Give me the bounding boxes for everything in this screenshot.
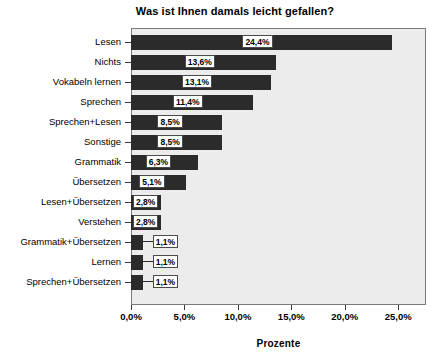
category-label: Sprechen — [80, 92, 121, 112]
x-axis-title: Prozente — [131, 338, 426, 349]
bar-value-label: 2,8% — [133, 195, 158, 208]
x-axis-tick — [184, 305, 185, 310]
category-axis: LesenNichtsVokabeln lernenSprechenSprech… — [0, 28, 131, 305]
x-axis-tick-label: 15,0% — [266, 311, 316, 322]
bar-chart: Was ist Ihnen damals leicht gefallen? Le… — [0, 0, 440, 362]
category-label: Nichts — [95, 52, 121, 72]
category-label: Sprechen+Übersetzen — [26, 272, 121, 292]
x-axis-tick — [291, 305, 292, 310]
bar-row: 13,1% — [131, 72, 426, 92]
x-axis-tick — [131, 305, 132, 310]
bar-value-label: 1,1% — [153, 275, 178, 288]
x-axis-tick — [398, 305, 399, 310]
bar-value-label: 1,1% — [153, 255, 178, 268]
category-label: Grammatik — [75, 152, 121, 172]
category-label: Lesen — [95, 32, 121, 52]
bar — [131, 275, 143, 290]
bar-row: 5,1% — [131, 172, 426, 192]
bar-value-label: 5,1% — [139, 175, 164, 188]
x-axis-tick — [345, 305, 346, 310]
bar-value-label: 13,6% — [185, 55, 215, 68]
x-axis-tick — [238, 305, 239, 310]
category-label: Grammatik+Übersetzen — [20, 232, 121, 252]
category-label: Sonstige — [84, 132, 121, 152]
bars-container: 24,4%13,6%13,1%11,4%8,5%8,5%6,3%5,1%2,8%… — [131, 28, 426, 305]
category-label: Vokabeln lernen — [53, 72, 121, 92]
bar-value-label: 11,4% — [173, 95, 203, 108]
x-axis-tick-label: 0,0% — [106, 311, 156, 322]
bar-row: 1,1% — [131, 232, 426, 252]
chart-title: Was ist Ihnen damals leicht gefallen? — [0, 5, 440, 17]
value-leader-line — [143, 241, 153, 242]
bar-value-label: 13,1% — [182, 75, 212, 88]
bar-row: 11,4% — [131, 92, 426, 112]
x-axis-tick-label: 10,0% — [213, 311, 263, 322]
category-label: Lernen — [91, 252, 121, 272]
bar-row: 6,3% — [131, 152, 426, 172]
bar-value-label: 8,5% — [157, 115, 182, 128]
bar-value-label: 24,4% — [242, 35, 272, 48]
bar-row: 13,6% — [131, 52, 426, 72]
value-leader-line — [143, 261, 153, 262]
x-axis-tick-label: 20,0% — [320, 311, 370, 322]
value-leader-line — [143, 281, 153, 282]
bar-row: 2,8% — [131, 192, 426, 212]
bar-row: 8,5% — [131, 132, 426, 152]
bar-value-label: 1,1% — [153, 235, 178, 248]
x-axis-tick-label: 5,0% — [159, 311, 209, 322]
bar-row: 24,4% — [131, 32, 426, 52]
bar — [131, 255, 143, 270]
x-axis-tick-label: 25,0% — [373, 311, 423, 322]
bar-row: 2,8% — [131, 212, 426, 232]
bar-value-label: 6,3% — [146, 155, 171, 168]
category-label: Sprechen+Lesen — [49, 112, 121, 132]
bar-row: 8,5% — [131, 112, 426, 132]
bar-value-label: 8,5% — [157, 135, 182, 148]
bar — [131, 235, 143, 250]
bar-value-label: 2,8% — [133, 215, 158, 228]
bar-row: 1,1% — [131, 252, 426, 272]
category-label: Übersetzen — [72, 172, 121, 192]
category-label: Verstehen — [78, 212, 121, 232]
category-label: Lesen+Übersetzen — [41, 192, 121, 212]
bar-row: 1,1% — [131, 272, 426, 292]
